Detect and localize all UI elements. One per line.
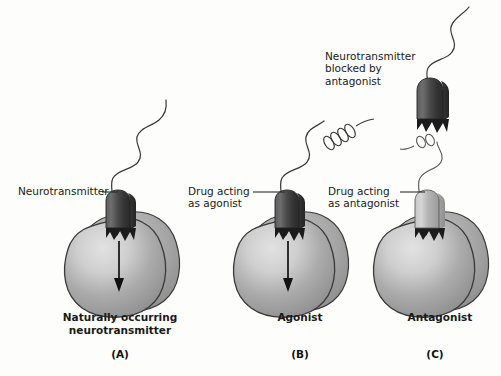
neurotransmitter-tail-a [111,100,166,198]
blocked-neurotransmitter-tail [427,7,469,88]
panel-letter-b: (B) [260,348,340,360]
agonist-tail-b [280,121,324,198]
label-drug-as-agonist-line2: as agonist [188,197,242,209]
panel-a-group [65,100,180,317]
panel-title-a: Naturally occurringneurotransmitter [60,311,180,336]
label-neurotransmitter: Neurotransmitter [18,185,109,197]
panel-title-c-line1: Antagonist [408,311,473,323]
panel-title-c: Antagonist [390,311,490,324]
blocked-neurotransmitter-molecule [417,78,449,133]
panel-b-group [234,119,374,317]
label-drug-as-antagonist-line2: as antagonist [328,197,399,209]
panel-letter-a: (A) [80,348,160,360]
panel-letter-c: (C) [395,348,475,360]
label-drug-as-agonist: Drug actingas agonist [188,185,250,210]
panel-title-b: Agonist [255,311,345,324]
label-blocked-line2: blocked by [325,62,382,74]
label-blocked-neurotransmitter: Neurotransmitterblocked byantagonist [325,50,416,87]
panel-title-a-line2: neurotransmitter [69,324,171,336]
figure-canvas: Neurotransmitter Drug actingas agonist D… [0,0,501,376]
label-drug-as-agonist-line1: Drug acting [188,185,250,197]
antagonist-tail-c [418,142,442,198]
label-blocked-line1: Neurotransmitter [325,50,416,62]
panel-title-b-line1: Agonist [277,311,322,323]
panel-title-a-line1: Naturally occurring [63,311,177,323]
antagonist-coil-c [400,133,436,150]
label-drug-as-antagonist-line1: Drug acting [328,185,390,197]
agonist-coil-b [321,119,374,152]
label-drug-as-antagonist: Drug actingas antagonist [328,185,399,210]
label-blocked-line3: antagonist [325,75,381,87]
